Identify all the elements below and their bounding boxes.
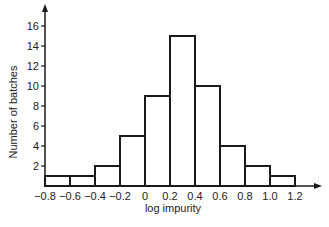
y-axis-arrow-icon [42, 4, 48, 12]
x-axis: −0.8−0.6−0.4−0.200.20.40.60.81.01.2 [34, 183, 322, 202]
histogram-bars [45, 36, 295, 186]
histogram-bar [170, 36, 195, 186]
histogram-bar [245, 166, 270, 186]
histogram-bar [95, 166, 120, 186]
y-tick-label: 10 [27, 80, 39, 92]
x-tick-label: −0.8 [34, 190, 56, 202]
y-tick-label: 4 [33, 140, 39, 152]
x-axis-arrow-icon [314, 183, 322, 189]
x-tick-label: 1.0 [262, 190, 277, 202]
y-tick-label: 8 [33, 100, 39, 112]
histogram-bar [70, 176, 95, 186]
y-tick-label: 16 [27, 20, 39, 32]
y-tick-label: 12 [27, 60, 39, 72]
x-tick-label: 0 [142, 190, 148, 202]
y-tick-label: 14 [27, 40, 39, 52]
x-tick-label: −0.6 [59, 190, 81, 202]
histogram-bar [220, 146, 245, 186]
y-axis: 246810121416 [27, 4, 48, 186]
y-tick-label: 2 [33, 160, 39, 172]
histogram-bar [120, 136, 145, 186]
x-tick-label: 1.2 [287, 190, 302, 202]
histogram-bar [45, 176, 70, 186]
x-tick-label: 0.8 [237, 190, 252, 202]
histogram-bar [195, 86, 220, 186]
histogram-bar [145, 96, 170, 186]
histogram-chart: 246810121416 −0.8−0.6−0.4−0.200.20.40.60… [0, 0, 329, 227]
x-tick-label: −0.4 [84, 190, 106, 202]
y-tick-label: 6 [33, 120, 39, 132]
x-tick-label: 0.6 [212, 190, 227, 202]
x-tick-label: 0.2 [162, 190, 177, 202]
x-tick-label: −0.2 [109, 190, 131, 202]
histogram-bar [270, 176, 295, 186]
y-axis-title: Number of batches [7, 65, 19, 158]
x-axis-title: log impurity [145, 202, 202, 214]
x-tick-label: 0.4 [187, 190, 202, 202]
